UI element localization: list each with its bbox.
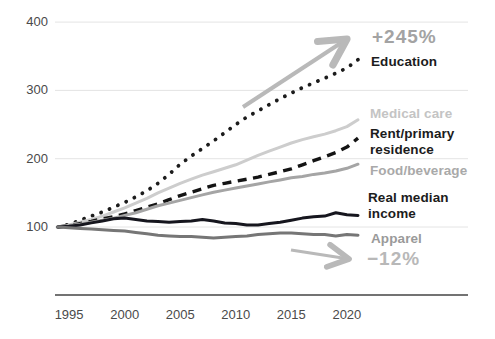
xtick-2005: 2005 xyxy=(158,308,202,321)
increase-annotation: +245% xyxy=(372,27,437,46)
label-medical-care: Medical care xyxy=(370,106,452,122)
label-rent-primary-residence: Rent/primary residence xyxy=(370,126,472,157)
price-index-line-chart: 400 300 200 100 1995 2000 2005 2010 2015… xyxy=(0,0,495,339)
xtick-2020: 2020 xyxy=(325,308,369,321)
xtick-1995: 1995 xyxy=(47,308,91,321)
ytick-400: 400 xyxy=(14,15,48,28)
label-apparel: Apparel xyxy=(371,231,422,247)
series-lines xyxy=(58,60,358,238)
series-line-education xyxy=(58,60,358,227)
xtick-2010: 2010 xyxy=(214,308,258,321)
increase-arrow-icon xyxy=(243,39,347,107)
series-line-apparel xyxy=(58,227,358,238)
ytick-200: 200 xyxy=(14,152,48,165)
series-line-rent-primary-residence xyxy=(58,138,358,227)
ytick-100: 100 xyxy=(14,220,48,233)
label-real-median-income: Real median income xyxy=(368,190,470,221)
label-education: Education xyxy=(371,54,437,70)
decrease-annotation: −12% xyxy=(367,249,420,268)
decrease-arrow-icon xyxy=(291,250,349,259)
xtick-2000: 2000 xyxy=(103,308,147,321)
ytick-300: 300 xyxy=(14,83,48,96)
label-food-beverage: Food/beverage xyxy=(370,163,467,179)
xtick-2015: 2015 xyxy=(269,308,313,321)
